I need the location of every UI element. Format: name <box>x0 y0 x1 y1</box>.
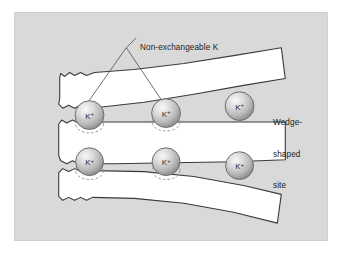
mineral-layer-group <box>59 48 286 223</box>
ion-bottom-left[interactable]: K+ <box>76 148 104 176</box>
figure-root: K+ K+ K+ K+ K+ <box>0 0 342 253</box>
leader-line-stub <box>126 38 136 48</box>
label-wedge-line2: shaped <box>273 150 302 161</box>
ion-top-right[interactable]: K+ <box>225 92 254 121</box>
ion-top-middle[interactable]: K+ <box>152 99 181 128</box>
diagram-panel: K+ K+ K+ K+ K+ <box>14 12 328 241</box>
label-non-exchangeable-k: Non-exchangeable K <box>140 43 218 54</box>
label-wedge-shaped-site: Wedge- shaped site <box>273 97 302 213</box>
label-wedge-line3: site <box>273 181 302 192</box>
ion-bottom-right[interactable]: K+ <box>226 152 254 180</box>
ion-bottom-middle[interactable]: K+ <box>152 148 180 176</box>
label-wedge-line1: Wedge- <box>273 118 302 129</box>
ion-top-left[interactable]: K+ <box>75 101 104 130</box>
